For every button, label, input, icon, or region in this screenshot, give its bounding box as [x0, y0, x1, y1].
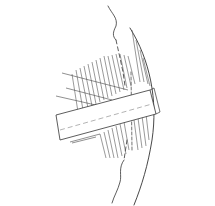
- sketch-drawing: [0, 0, 215, 206]
- wavy-boundary: [108, 6, 116, 40]
- wavy-boundary-lower: [112, 160, 124, 203]
- diagonal-bar: [56, 90, 156, 140]
- sketch-canvas: [0, 0, 215, 206]
